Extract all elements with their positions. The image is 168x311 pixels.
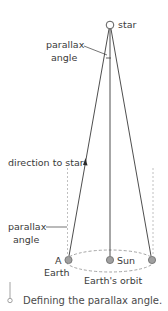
right-sight-line bbox=[111, 29, 151, 256]
earths-orbit-label: Earth's orbit bbox=[84, 275, 142, 286]
star-label: star bbox=[118, 19, 136, 30]
direction-to-star-label: direction to star bbox=[8, 157, 84, 168]
left-sight-line bbox=[69, 29, 109, 256]
earth-label: Earth bbox=[44, 267, 69, 278]
earth-position-a-label: A bbox=[55, 255, 62, 266]
sun-label: Sun bbox=[117, 255, 135, 266]
earth-a-icon bbox=[65, 256, 72, 263]
sun-icon bbox=[106, 256, 113, 263]
direction-arrow-icon bbox=[83, 158, 88, 166]
top-parallax-angle-label-line2: angle bbox=[51, 52, 78, 63]
earth-b-icon bbox=[148, 256, 155, 263]
caption-text: Defining the parallax angle. bbox=[23, 295, 162, 306]
top-parallax-angle-label-line1: parallax bbox=[46, 39, 85, 50]
bottom-parallax-angle-label-line2: angle bbox=[13, 234, 40, 245]
star-icon bbox=[106, 21, 114, 29]
parallax-diagram: star parallax angle direction to star pa… bbox=[0, 0, 168, 311]
top-angle-leader-line bbox=[84, 46, 107, 55]
bottom-parallax-angle-label-line1: parallax bbox=[8, 221, 47, 232]
caption-marker-icon bbox=[8, 298, 12, 302]
